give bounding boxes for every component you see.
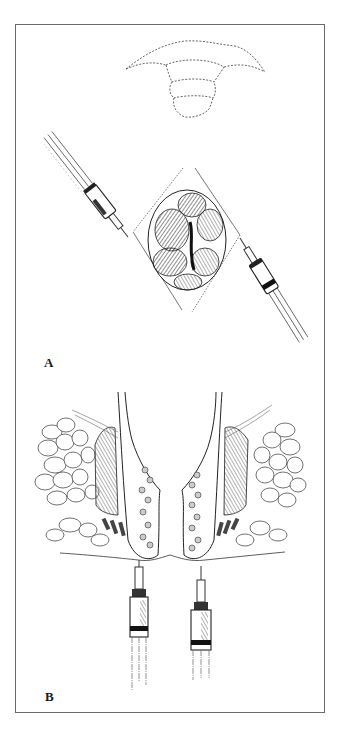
syringe-upper-left [41,130,134,242]
perianal-skin [60,552,285,561]
external-sphincter [102,518,240,537]
panel-label-b: B [45,689,54,705]
syringe-bottom-left [130,560,148,690]
hemorrhoid-mass [148,190,226,290]
syringe-bottom-right [191,566,211,680]
gluteal-outline-dashed [126,41,265,117]
anal-canal-cross-section [35,392,306,561]
syringe-lower-right [234,234,309,343]
levator-muscle-left [95,427,118,515]
panel-label-a: A [44,355,53,371]
rectal-wall-right [182,392,222,559]
levator-muscle-right [224,427,248,515]
